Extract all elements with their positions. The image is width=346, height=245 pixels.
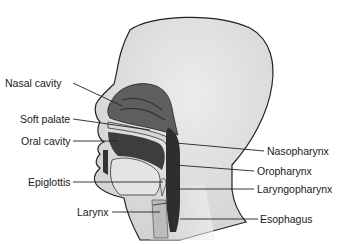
label-laryngopharynx: Laryngopharynx [257,183,332,195]
label-nasopharynx: Nasopharynx [267,145,329,157]
label-nasal-cavity: Nasal cavity [5,77,62,89]
anatomy-diagram: Nasal cavity Soft palate Oral cavity Epi… [0,0,346,245]
label-esophagus: Esophagus [260,213,313,225]
label-oropharynx: Oropharynx [257,165,312,177]
label-larynx: Larynx [77,206,109,218]
larynx-shape [152,200,168,238]
label-oral-cavity: Oral cavity [21,135,71,147]
label-epiglottis: Epiglottis [28,176,71,188]
label-soft-palate: Soft palate [20,113,70,125]
